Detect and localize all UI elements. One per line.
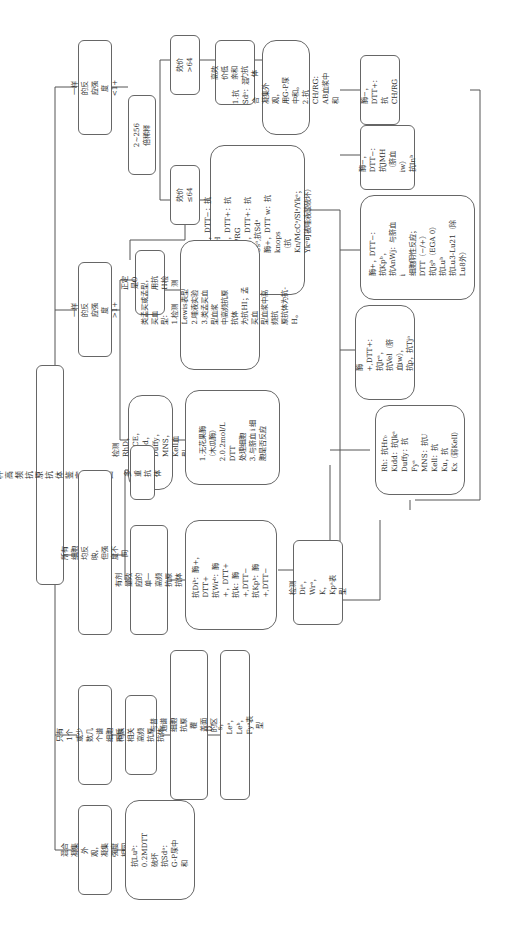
coverage-diff-box: 与普通谱细胞抗原覆 盖面的区别 (170, 650, 208, 800)
branch-reaction-gt1: 一样的反应强度>1+ (78, 262, 112, 357)
bombay-box: 类孟买或孟买血 型： 1.检测 Lewis表型 2.唾液实验 3.类孟买血型血浆… (180, 240, 260, 370)
enzyme-neg-dtt-neg-box: 酶−，DTT−： 抗JMH （脐血iw） 抗Inᵇ (360, 125, 415, 190)
blood-group-antibodies-box: Rh：抗Hr₀ Kidd：抗Jkᵃ Duffy：抗Fyᵃ MNS：抗U Kell… (375, 405, 465, 495)
enzyme-neg-dtt-pos-box: 酶−，DTT+： 抗CH/RG (360, 55, 400, 125)
lub-sda-box: 抗Luᵇ：0.2MDTT 破坏 抗Sdᵃ：G-P尿中 和 (125, 800, 195, 900)
dilution-box: 2~256倍稀释 (128, 95, 156, 175)
multiple-antibodies-box: 多重抗体 (130, 445, 155, 500)
enzyme-dtt-box: 1.无花果酶 （木瓜酶） 2.0.2mol/L DTT 处理细胞 3.与脐血 i… (185, 390, 280, 485)
titer-le64-box: 效价≤64 (170, 165, 200, 225)
detect-di-phenotype-box: 检测Diᵃ， Wrᵃ，K，Kpᵃ表型 (293, 540, 343, 625)
single-antibody-box: 有剂量效应的单一 高频抗原抗体 (130, 525, 168, 635)
branch-few-cells-nonreactive: 只有1个或少数几个谱 细胞不反应 (78, 685, 112, 785)
antibody-enzyme-list-box: 抗Diᵇ：酶+，DTT+ 抗Wrᵇ：酶+，DTT+ 抗k：酶+,DTT− 抗Kp… (185, 520, 277, 630)
htla-detail-box: 1.抗Sdᵃ：混合 凝集外观， 用G-P尿中和。 2.抗CH/RG： AB血浆中… (262, 40, 310, 135)
branch-mixed-agglutination: 混合凝集外观， 凝集强度相同 (78, 805, 112, 895)
branch-all-cells-react: 所有细胞均反映，但强度不同 (78, 470, 112, 635)
race-related-box: 种族相关高频抗原 抗体 (125, 695, 157, 775)
titer-gt64-box: 效价>64 (170, 35, 200, 95)
branch-reaction-lt1: 一样的反应强度<1+ (78, 40, 112, 135)
enzyme-pos-dtt-pos-box: 酶+,DTT+：抗Jrᵃ， 抗Vel（脐血iw）， 抗p，抗Tjᵃ (355, 305, 415, 400)
enzyme-pos-dtt-neg-box: 酶+，DTT−： 抗Kpᵇ， 抗AnWj：与脐血i 细胞阴性反应； DTT（−/… (360, 195, 475, 300)
phenotype-box: D，s，Leᵃ，Leᵇ，Fyᵃ表型 (220, 650, 250, 800)
